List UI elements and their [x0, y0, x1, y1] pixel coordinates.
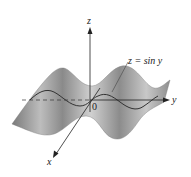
y-axis-label: y — [172, 95, 176, 105]
y-axis-arrow-icon — [163, 98, 170, 103]
x-axis-label: x — [47, 157, 51, 167]
sine-surface — [12, 66, 170, 139]
z-axis-arrow-icon — [88, 27, 93, 34]
origin-label: 0 — [92, 102, 97, 112]
z-axis-label: z — [87, 16, 91, 26]
equation-label: z = sin y — [128, 56, 162, 66]
surface-diagram — [0, 0, 191, 177]
